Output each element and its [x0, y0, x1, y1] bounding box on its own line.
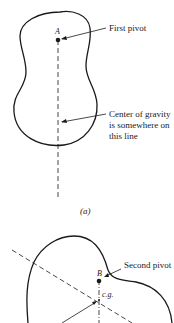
cg-point — [98, 299, 100, 301]
cg-pointer-arrow — [62, 302, 96, 323]
first-pivot-arrow — [62, 28, 106, 39]
first-line-dashed-a — [12, 250, 132, 323]
first-pivot-label: First pivot — [109, 23, 147, 33]
arrowhead-icon — [61, 36, 67, 40]
center-of-gravity-diagram: A First pivot Center of gravity is somew… — [0, 0, 174, 323]
cg-line-arrow — [62, 114, 106, 122]
figure-b: B Second pivot c.g. — [12, 236, 172, 323]
caption-a: (a) — [80, 206, 91, 216]
arrowhead-icon — [61, 119, 67, 123]
point-b-label: B — [97, 269, 102, 278]
pivot-point-a — [56, 38, 61, 43]
arrowhead-icon — [104, 273, 109, 277]
cg-line-label-2: is somewhere on — [109, 120, 170, 130]
cg-line-label-3: this line — [109, 131, 138, 141]
pivot-point-b — [97, 279, 102, 284]
figure-a: A First pivot Center of gravity is somew… — [14, 12, 171, 216]
second-pivot-label: Second pivot — [124, 260, 172, 270]
point-a-label: A — [54, 27, 60, 36]
cg-label: c.g. — [102, 290, 114, 299]
cg-line-label-1: Center of gravity — [109, 109, 171, 119]
